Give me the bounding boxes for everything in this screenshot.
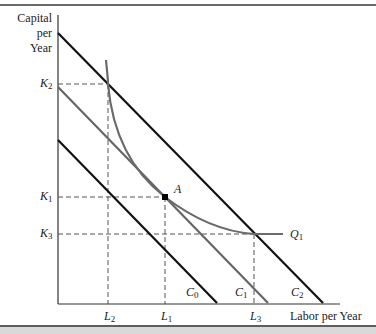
c1-sub: 1 xyxy=(243,290,248,300)
isoquant-curve-q1 xyxy=(106,60,283,234)
l3-base: L xyxy=(250,309,257,323)
k1-sub: 1 xyxy=(48,194,53,204)
tick-label-k2: K2 xyxy=(40,76,53,91)
tick-label-k3: K3 xyxy=(40,226,53,241)
l2-base: L xyxy=(104,309,111,323)
k2-base: K xyxy=(40,76,48,90)
label-c0: C0 xyxy=(186,285,199,300)
y-axis-title-line-3: Year xyxy=(2,41,52,56)
diagram-canvas xyxy=(0,0,376,334)
c1-base: C xyxy=(235,285,243,299)
l3-sub: 3 xyxy=(257,314,262,324)
l1-base: L xyxy=(161,309,168,323)
c0-sub: 0 xyxy=(194,290,199,300)
tick-label-l1: L1 xyxy=(161,309,172,324)
k1-base: K xyxy=(40,189,48,203)
tick-label-l2: L2 xyxy=(104,309,115,324)
q1-base: Q xyxy=(290,227,299,241)
c2-base: C xyxy=(291,285,299,299)
k3-sub: 3 xyxy=(48,231,53,241)
label-c1: C1 xyxy=(235,285,248,300)
y-axis-title-line-2: per xyxy=(2,26,52,41)
label-point-a: A xyxy=(174,182,181,197)
x-axis-title: Labor per Year xyxy=(290,309,362,324)
c2-sub: 2 xyxy=(299,290,304,300)
c0-base: C xyxy=(186,285,194,299)
diagram-frame: Capital per Year K2 K1 K3 L2 L1 L3 Labor… xyxy=(0,0,376,334)
label-q1: Q1 xyxy=(290,227,303,242)
point-a-marker xyxy=(162,194,168,200)
l2-sub: 2 xyxy=(111,314,116,324)
l1-sub: 1 xyxy=(168,314,173,324)
k3-base: K xyxy=(40,226,48,240)
isocost-line-c0 xyxy=(58,140,217,303)
label-c2: C2 xyxy=(291,285,304,300)
q1-sub: 1 xyxy=(299,232,304,242)
isocost-line-c2 xyxy=(58,33,323,303)
k2-sub: 2 xyxy=(48,81,53,91)
tick-label-l3: L3 xyxy=(250,309,261,324)
tick-label-k1: K1 xyxy=(40,189,53,204)
y-axis-title-line-1: Capital xyxy=(2,11,52,26)
bottom-bar xyxy=(0,325,376,334)
y-axis-title: Capital per Year xyxy=(2,11,52,56)
